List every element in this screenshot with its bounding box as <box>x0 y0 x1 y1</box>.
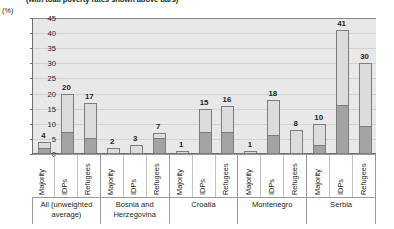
y-axis-unit-label: (%) <box>2 6 13 15</box>
bar-value-label-9: 1 <box>233 140 267 149</box>
bar-value-label-2: 17 <box>72 92 106 101</box>
category-label: Majority <box>313 169 322 195</box>
gridline-25 <box>33 78 376 79</box>
group-label-table: All (unweighted average)Bosnia and Herze… <box>32 198 376 224</box>
category-cell-majority-3: Majority <box>101 155 124 197</box>
bar-serbia-idps <box>336 30 349 154</box>
gridline-35 <box>33 48 376 49</box>
gridline-30 <box>33 63 376 64</box>
bar-all-unweighted-average--refugees <box>84 103 97 154</box>
group-label-croatia: Croatia <box>170 198 239 224</box>
category-label: Majority <box>175 169 184 195</box>
category-cell-refugees-14: Refugees <box>353 155 376 197</box>
bar-value-label-0: 4 <box>26 131 60 140</box>
category-cell-refugees-8: Refugees <box>216 155 239 197</box>
category-cell-idps-7: IDPs <box>193 155 216 197</box>
category-label-table: MajorityIDPsRefugeesMajorityIDPsRefugees… <box>32 154 376 198</box>
bar-all-unweighted-average--idps <box>61 94 74 154</box>
category-cell-majority-9: Majority <box>238 155 261 197</box>
category-label: IDPs <box>336 179 345 195</box>
bar-lower-segment <box>268 135 279 153</box>
category-label: Majority <box>106 169 115 195</box>
bar-value-label-8: 16 <box>210 95 244 104</box>
bar-montenegro-refugees <box>290 130 303 154</box>
category-label: IDPs <box>60 179 69 195</box>
bar-lower-segment <box>200 132 211 153</box>
bar-lower-segment <box>154 138 165 153</box>
category-label: IDPs <box>267 179 276 195</box>
group-label-all-unweighted-average-: All (unweighted average) <box>32 198 101 224</box>
category-cell-idps-4: IDPs <box>124 155 147 197</box>
category-cell-idps-13: IDPs <box>330 155 353 197</box>
y-axis-tick-25 <box>30 78 33 79</box>
category-cell-majority-6: Majority <box>170 155 193 197</box>
y-axis-tick-35 <box>30 48 33 49</box>
bar-bosnia-and-herzegovina-idps <box>130 145 143 154</box>
bar-value-label-12: 10 <box>302 113 336 122</box>
bar-lower-segment <box>360 126 371 153</box>
y-axis-tick-10 <box>30 124 33 125</box>
group-label-serbia: Serbia <box>307 198 376 224</box>
category-label: Refugees <box>359 163 368 195</box>
bar-value-label-5: 7 <box>141 122 175 131</box>
y-axis-tick-20 <box>30 94 33 95</box>
y-axis-tick-30 <box>30 63 33 64</box>
bar-value-label-6: 1 <box>164 140 198 149</box>
group-label-montenegro: Montenegro <box>238 198 307 224</box>
category-cell-idps-10: IDPs <box>261 155 284 197</box>
bar-lower-segment <box>85 138 96 153</box>
category-cell-refugees-11: Refugees <box>284 155 307 197</box>
category-cell-majority-0: Majority <box>32 155 55 197</box>
category-label: Refugees <box>83 163 92 195</box>
category-label: Refugees <box>290 163 299 195</box>
y-axis-tick-label-10: 10 <box>34 119 56 128</box>
bar-serbia-refugees <box>359 63 372 154</box>
bar-value-label-14: 30 <box>348 52 382 61</box>
chart-caption: (with total poverty rates shown above ba… <box>26 0 178 4</box>
category-label: IDPs <box>129 179 138 195</box>
y-axis-tick-label-30: 30 <box>34 59 56 68</box>
category-label: Refugees <box>152 163 161 195</box>
category-label: Majority <box>244 169 253 195</box>
category-cell-refugees-5: Refugees <box>147 155 170 197</box>
chart-plot-area <box>32 18 376 154</box>
bar-value-label-1: 20 <box>49 83 83 92</box>
category-cell-majority-12: Majority <box>307 155 330 197</box>
bar-value-label-4: 3 <box>118 134 152 143</box>
bar-lower-segment <box>222 132 233 153</box>
y-axis-tick-label-40: 40 <box>34 29 56 38</box>
y-axis-tick-15 <box>30 109 33 110</box>
bar-value-label-13: 41 <box>325 19 359 28</box>
y-axis-tick-40 <box>30 33 33 34</box>
bar-lower-segment <box>314 145 325 153</box>
bar-serbia-majority <box>313 124 326 154</box>
bar-lower-segment <box>62 132 73 153</box>
category-label: Refugees <box>221 163 230 195</box>
bar-croatia-idps <box>199 109 212 154</box>
category-label: Majority <box>37 169 46 195</box>
y-axis-tick-label-35: 35 <box>34 44 56 53</box>
y-axis-tick-label-45: 45 <box>34 14 56 23</box>
bar-lower-segment <box>337 105 348 153</box>
y-axis-tick-45 <box>30 18 33 19</box>
category-cell-refugees-2: Refugees <box>78 155 101 197</box>
group-label-bosnia-and-herzegovina: Bosnia and Herzegovina <box>101 198 170 224</box>
category-label: IDPs <box>198 179 207 195</box>
y-axis-tick-label-15: 15 <box>34 104 56 113</box>
bar-value-label-10: 18 <box>256 89 290 98</box>
category-cell-idps-1: IDPs <box>55 155 78 197</box>
gridline-40 <box>33 33 376 34</box>
